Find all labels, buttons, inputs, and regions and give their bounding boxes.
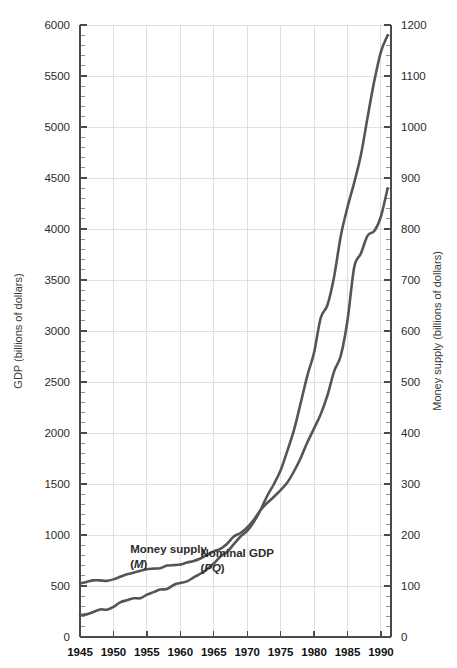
left-axis-tick-label: 4000: [44, 223, 70, 235]
x-axis-tick-label: 1945: [67, 646, 93, 658]
x-axis-tick-label: 1980: [301, 646, 327, 658]
right-axis-tick-label: 0: [401, 631, 407, 643]
left-axis-tick-label: 5000: [44, 121, 70, 133]
right-axis-tick-label: 300: [401, 478, 420, 490]
right-axis-tick-label: 600: [401, 325, 420, 337]
right-axis-tick-label: 700: [401, 274, 420, 286]
x-axis-tick-label: 1975: [268, 646, 294, 658]
left-axis-tick-label: 6000: [44, 19, 70, 31]
left-axis-tick-label: 1500: [44, 478, 70, 490]
gdp-money-supply-chart: 0500100015002000250030003500400045005000…: [0, 0, 457, 668]
x-axis-tick-label: 1950: [101, 646, 127, 658]
left-axis-tick-label: 0: [64, 631, 70, 643]
left-axis-tick-label: 4500: [44, 172, 70, 184]
annotation-symbol: (PQ): [200, 562, 224, 574]
left-axis-tick-label: 3000: [44, 325, 70, 337]
left-axis-tick-label: 5500: [44, 70, 70, 82]
x-axis-tick-label: 1965: [201, 646, 227, 658]
x-axis-tick-label: 1985: [335, 646, 361, 658]
left-axis-tick-label: 3500: [44, 274, 70, 286]
annotation-name: Money supply: [130, 543, 207, 555]
right-axis-tick-label: 200: [401, 529, 420, 541]
right-axis-tick-label: 400: [401, 427, 420, 439]
left-axis-tick-label: 500: [51, 580, 70, 592]
right-axis-tick-label: 500: [401, 376, 420, 388]
left-axis-tick-label: 1000: [44, 529, 70, 541]
x-axis-tick-label: 1970: [234, 646, 260, 658]
right-axis-tick-label: 800: [401, 223, 420, 235]
left-axis-tick-label: 2500: [44, 376, 70, 388]
right-axis-tick-label: 900: [401, 172, 420, 184]
x-axis-tick-label: 1955: [134, 646, 160, 658]
right-axis-tick-label: 1100: [401, 70, 426, 82]
right-axis-title: Money supply (billions of dollars): [431, 251, 443, 411]
annotation-name: Nominal GDP: [200, 547, 274, 559]
annotation-symbol: (M): [130, 558, 147, 570]
right-axis-tick-label: 1000: [401, 121, 427, 133]
left-axis-tick-label: 2000: [44, 427, 70, 439]
right-axis-tick-label: 1200: [401, 19, 427, 31]
x-axis-tick-label: 1990: [368, 646, 394, 658]
right-axis-tick-label: 100: [401, 580, 420, 592]
left-axis-title: GDP (billions of dollars): [12, 273, 24, 388]
x-axis-tick-label: 1960: [168, 646, 194, 658]
